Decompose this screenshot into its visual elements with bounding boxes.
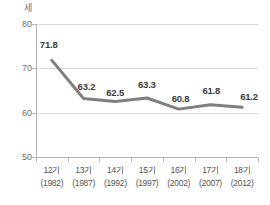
data-point-value-label: 62.5 — [106, 88, 124, 98]
x-axis-year-label: (1987) — [68, 177, 100, 190]
y-axis-tick-label: 50 — [12, 153, 32, 162]
x-axis-year-label: (1997) — [131, 177, 163, 190]
y-axis-tick-label-group: 80706050 — [10, 0, 32, 205]
data-point-value-label: 71.8 — [40, 40, 58, 50]
y-axis-tick-label: 70 — [12, 64, 32, 73]
x-axis-tick-mark — [163, 158, 164, 162]
data-point-value-label: 60.8 — [172, 94, 190, 104]
x-axis-term-label: 17기 — [195, 164, 227, 177]
x-axis-year-label: (2007) — [195, 177, 227, 190]
x-axis-tick-mark — [226, 158, 227, 162]
x-axis-tick-mark — [36, 158, 37, 162]
data-point-value-label: 61.2 — [240, 92, 258, 102]
x-axis-category-label: 14기(1992) — [99, 164, 131, 200]
x-axis-term-label: 15기 — [131, 164, 163, 177]
x-axis-category-label: 12기(1982) — [36, 164, 68, 200]
x-axis-year-label: (2012) — [226, 177, 258, 190]
data-point-value-label: 61.8 — [202, 86, 220, 96]
data-point-value-label: 63.2 — [78, 82, 96, 92]
x-axis-term-label: 14기 — [99, 164, 131, 177]
y-axis-tick-label: 80 — [12, 20, 32, 29]
x-axis-label-group: 12기(1982)13기(1987)14기(1992)15기(1997)16기(… — [36, 164, 258, 200]
x-axis-term-label: 16기 — [163, 164, 195, 177]
x-axis-term-label: 13기 — [68, 164, 100, 177]
x-axis-tick-mark — [258, 158, 259, 162]
x-axis-year-label: (1982) — [36, 177, 68, 190]
data-point-value-label: 63.3 — [138, 80, 156, 90]
x-axis-tick-mark — [99, 158, 100, 162]
x-axis-category-label: 13기(1987) — [68, 164, 100, 200]
x-axis-category-label: 17기(2007) — [195, 164, 227, 200]
x-axis-category-label: 18기(2012) — [226, 164, 258, 200]
line-chart: 세 80706050 71.863.262.563.360.861.861.2 … — [0, 0, 270, 205]
x-axis-tick-mark — [131, 158, 132, 162]
x-axis-category-label: 15기(1997) — [131, 164, 163, 200]
x-axis-term-label: 12기 — [36, 164, 68, 177]
x-axis-tick-mark — [195, 158, 196, 162]
x-axis-category-label: 16기(2002) — [163, 164, 195, 200]
x-axis-term-label: 18기 — [226, 164, 258, 177]
x-axis-year-label: (2002) — [163, 177, 195, 190]
series-line-group — [36, 24, 258, 158]
y-axis-tick-label: 60 — [12, 109, 32, 118]
x-axis-tick-mark — [68, 158, 69, 162]
x-axis-year-label: (1992) — [99, 177, 131, 190]
